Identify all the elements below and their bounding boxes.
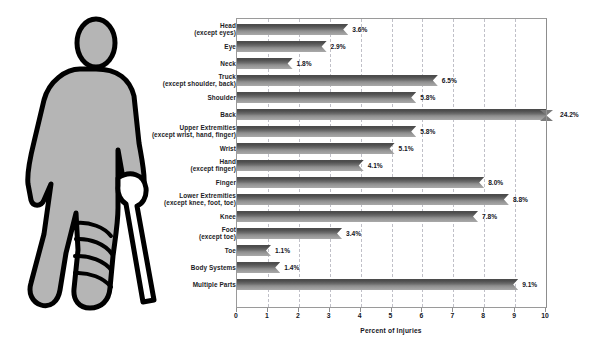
x-axis-ticks: 012345678910 [236, 308, 546, 320]
bar [237, 160, 364, 171]
x-tick-label: 0 [234, 312, 238, 319]
bar-row [237, 58, 546, 69]
category-label: Upper Extremities(except wrist, hand, fi… [106, 124, 236, 139]
category-label: Lower Extremities(except knee, foot, toe… [106, 192, 236, 207]
bar [237, 279, 518, 290]
injury-body-part-chart-figure: Head(except eyes)EyeNeckTruck(except sho… [0, 0, 604, 343]
category-label-qualifier: (except eyes) [106, 29, 236, 36]
category-label-qualifier: (except toe) [106, 233, 236, 240]
bar-row [237, 194, 546, 205]
category-label-primary: Neck [220, 60, 236, 67]
bar-row [237, 92, 546, 103]
x-axis-title: Percent of Injuries [236, 327, 546, 334]
category-label: Toe [106, 247, 236, 254]
bar-value-label: 1.1% [275, 245, 290, 256]
x-tick-label: 6 [420, 312, 424, 319]
bar [237, 245, 271, 256]
category-label: Foot(except toe) [106, 226, 236, 241]
category-label: Neck [106, 60, 236, 67]
bar [237, 92, 416, 103]
bar-row [237, 143, 546, 154]
category-label-primary: Knee [220, 213, 236, 220]
category-label-primary: Back [220, 111, 236, 118]
category-label-primary: Truck [218, 73, 236, 80]
category-label: Truck(except shoulder, back) [106, 73, 236, 88]
category-label-primary: Shoulder [208, 94, 237, 101]
bar-row [237, 160, 546, 171]
category-label-primary: Upper Extremities [180, 124, 236, 131]
bar [237, 211, 478, 222]
x-tick-label: 2 [296, 312, 300, 319]
category-label-primary: Multiple Parts [193, 281, 236, 288]
bar-value-label: 3.6% [352, 24, 367, 35]
bar-value-label: 8.8% [513, 194, 528, 205]
axis-break-marker-icon [540, 108, 553, 121]
category-label-primary: Toe [225, 247, 236, 254]
category-label: Back [106, 111, 236, 118]
x-tick-label: 1 [265, 312, 269, 319]
category-label: Head(except eyes) [106, 22, 236, 37]
category-label-primary: Finger [216, 179, 236, 186]
category-label: Multiple Parts [106, 281, 236, 288]
bar [237, 143, 395, 154]
bar-row [237, 279, 546, 290]
category-label-qualifier: (except knee, foot, toe) [106, 199, 236, 206]
bar [237, 126, 416, 137]
category-label: Hand(except finger) [106, 158, 236, 173]
bar-value-label: 4.1% [368, 160, 383, 171]
bar [237, 24, 348, 35]
bar [237, 58, 293, 69]
bar-chart: Head(except eyes)EyeNeckTruck(except sho… [150, 14, 604, 343]
category-label: Eye [106, 43, 236, 50]
bar-value-label: 5.8% [420, 126, 435, 137]
category-label: Shoulder [106, 94, 236, 101]
bar-row [237, 41, 546, 52]
category-label: Finger [106, 179, 236, 186]
bar [237, 194, 509, 205]
bar-row [237, 211, 546, 222]
bar-value-label: 1.8% [297, 58, 312, 69]
category-label-primary: Body Systems [191, 264, 236, 271]
category-label-primary: Wrist [220, 145, 236, 152]
x-tick-label: 3 [327, 312, 331, 319]
bar-value-label: 8.0% [488, 177, 503, 188]
bar-value-label: 1.4% [284, 262, 299, 273]
bar-value-label: 6.5% [442, 75, 457, 86]
bar-row [237, 109, 546, 120]
x-tick-label: 8 [481, 312, 485, 319]
x-tick-label: 7 [450, 312, 454, 319]
bar-value-label: 2.9% [331, 41, 346, 52]
bar [237, 41, 327, 52]
category-label: Body Systems [106, 264, 236, 271]
bar-value-label: 3.4% [346, 228, 361, 239]
category-label-primary: Lower Extremities [179, 192, 236, 199]
category-label: Knee [106, 213, 236, 220]
bar-value-label: 9.1% [522, 279, 537, 290]
bar [237, 228, 342, 239]
bar [237, 109, 546, 120]
category-label: Wrist [106, 145, 236, 152]
bar-value-label: 5.1% [399, 143, 414, 154]
category-label-qualifier: (except shoulder, back) [106, 80, 236, 87]
bar-value-label: 5.8% [420, 92, 435, 103]
category-label-qualifier: (except wrist, hand, finger) [106, 131, 236, 138]
bar-row [237, 24, 546, 35]
category-label-primary: Head [220, 22, 236, 29]
bar-row [237, 126, 546, 137]
category-label-qualifier: (except finger) [106, 165, 236, 172]
bar-row [237, 228, 546, 239]
x-tick-label: 10 [541, 312, 549, 319]
bar-row [237, 75, 546, 86]
plot-area: 3.6%2.9%1.8%6.5%5.8%24.2%5.8%5.1%4.1%8.0… [236, 18, 547, 308]
x-tick-label: 9 [512, 312, 516, 319]
bar-value-label: 24.2% [560, 109, 579, 120]
x-tick-label: 4 [358, 312, 362, 319]
bar [237, 177, 484, 188]
category-label-column: Head(except eyes)EyeNeckTruck(except sho… [150, 20, 236, 302]
bar-value-label: 7.8% [482, 211, 497, 222]
x-tick-label: 5 [389, 312, 393, 319]
category-label-primary: Eye [224, 43, 236, 50]
category-label-primary: Foot [222, 226, 236, 233]
category-label-primary: Hand [220, 158, 236, 165]
bar [237, 262, 280, 273]
